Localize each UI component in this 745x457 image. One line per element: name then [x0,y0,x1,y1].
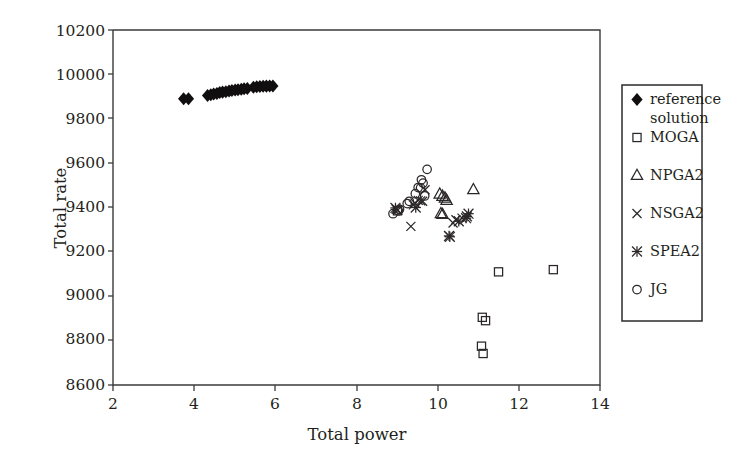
x-tick-label: 6 [270,395,280,413]
asterisk-legend-icon [632,246,642,256]
x-axis-tick-labels: 2 4 6 8 10 12 14 [108,395,610,413]
y-tick-label: 10200 [56,22,105,40]
series-spea2 [390,202,473,242]
data-point [445,232,455,242]
y-axis-title: Total rate [51,168,70,249]
y-axis-ticks [108,30,113,385]
plot-frame [113,30,600,385]
data-point [494,268,502,276]
data-point [478,313,486,321]
y-tick-label: 8600 [66,376,105,394]
x-tick-label: 8 [352,395,362,413]
x-tick-label: 12 [509,395,529,413]
data-point [423,165,432,174]
scatter-plot-figure: 10200 10000 9800 9600 9400 9200 9000 880… [0,0,745,457]
legend-label-line2: solution [650,110,709,126]
y-tick-label: 9200 [66,242,105,260]
data-point [481,317,489,325]
series-jg [389,165,432,218]
x-tick-label: 4 [189,395,199,413]
x-axis-ticks [113,385,600,391]
legend-label: NPGA2 [650,167,704,183]
x-tick-label: 14 [590,395,610,413]
legend-label: MOGA [650,129,699,145]
data-series-layer [178,79,557,357]
x-axis-title: Total power [308,425,407,444]
data-point [549,266,557,274]
chart-canvas: 10200 10000 9800 9600 9400 9200 9000 880… [0,0,745,457]
y-tick-label: 9800 [66,110,105,128]
data-point [403,199,412,208]
series-moga [393,207,557,358]
data-point [468,183,479,193]
legend: referencesolutionMOGANPGA2NSGA2SPEA2JG [622,85,721,321]
legend-label: NSGA2 [650,205,704,221]
y-tick-label: 9600 [66,154,105,172]
legend-label: reference [650,91,721,107]
legend-label: SPEA2 [650,243,700,259]
data-point [454,216,464,226]
y-tick-label: 9000 [66,286,105,304]
legend-label: JG [648,281,667,297]
y-tick-label: 8800 [66,330,105,348]
data-point [406,222,415,231]
y-tick-label: 10000 [56,66,105,84]
x-tick-label: 2 [108,395,118,413]
series-reference-solution [178,79,278,105]
y-tick-label: 9400 [66,198,105,216]
x-tick-label: 10 [428,395,448,413]
